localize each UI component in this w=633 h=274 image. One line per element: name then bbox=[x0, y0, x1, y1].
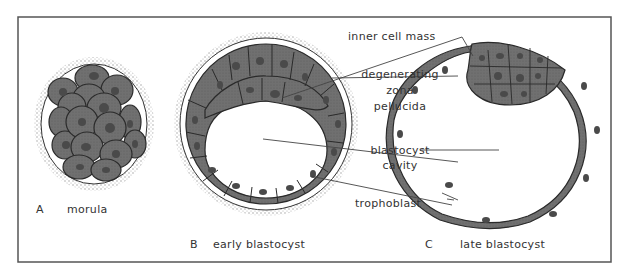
label-pellucida: pellucida bbox=[350, 100, 450, 113]
caption-early-blastocyst: early blastocyst bbox=[213, 238, 305, 251]
panel-letter-a: A bbox=[36, 203, 44, 216]
label-inner-cell-mass: inner cell mass bbox=[348, 30, 436, 43]
caption-late-blastocyst: late blastocyst bbox=[460, 238, 545, 251]
figure-canvas bbox=[0, 0, 633, 274]
caption-morula: morula bbox=[67, 203, 108, 216]
early-blastocyst-drawing bbox=[174, 32, 358, 216]
label-zona: zona bbox=[350, 84, 450, 97]
panel-letter-c: C bbox=[425, 238, 433, 251]
morula-drawing bbox=[34, 57, 154, 191]
blastocyst-development-figure: A morula B early blastocyst C late blast… bbox=[0, 0, 633, 274]
label-degenerating: degenerating bbox=[350, 68, 450, 81]
panel-letter-b: B bbox=[190, 238, 198, 251]
label-cavity: cavity bbox=[355, 159, 445, 172]
label-trophoblast: trophoblast bbox=[355, 197, 421, 210]
label-blastocyst: blastocyst bbox=[355, 144, 445, 157]
